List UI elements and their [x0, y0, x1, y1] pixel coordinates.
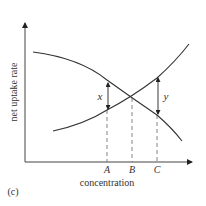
gap-x-label: x: [97, 90, 103, 102]
decreasing-curve: [33, 52, 182, 141]
tick-A: A: [103, 164, 111, 175]
panel-label: (c): [7, 186, 18, 198]
gap-y-label: y: [163, 90, 169, 102]
tick-C: C: [154, 164, 161, 175]
tick-B: B: [129, 164, 135, 175]
x-axis-label: concentration: [80, 177, 134, 188]
uptake-diagram: x y A B C concentration (c) net uptake r…: [0, 0, 206, 206]
y-axis-label: net uptake rate: [8, 62, 19, 121]
increasing-curve: [53, 44, 189, 131]
